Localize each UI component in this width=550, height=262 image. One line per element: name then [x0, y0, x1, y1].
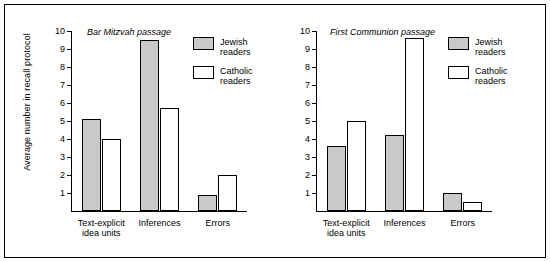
y-tick — [312, 157, 317, 158]
y-tick — [312, 121, 317, 122]
y-tick — [67, 49, 72, 50]
bar-jewish — [327, 146, 346, 211]
x-tick-label: Text-explicit idea units — [323, 218, 370, 238]
plot-area-first-communion: 12345678910Text-explicit idea unitsInfer… — [316, 31, 492, 212]
y-tick-label: 4 — [60, 135, 65, 144]
bar-jewish — [385, 135, 404, 211]
y-tick-label: 3 — [305, 153, 310, 162]
y-tick — [312, 193, 317, 194]
bar-catholic — [347, 121, 366, 211]
bar-catholic — [463, 202, 482, 211]
bar-jewish — [443, 193, 462, 211]
y-tick — [67, 193, 72, 194]
y-tick — [312, 139, 317, 140]
chart-panel-first-communion: First Communion passage Jewish readers C… — [290, 19, 540, 243]
y-tick — [312, 85, 317, 86]
bar-jewish — [198, 195, 217, 211]
y-tick-label: 8 — [60, 63, 65, 72]
y-tick — [67, 121, 72, 122]
y-tick-label: 10 — [300, 27, 310, 36]
y-tick-label: 10 — [55, 27, 65, 36]
y-tick-label: 5 — [60, 117, 65, 126]
y-tick — [312, 31, 317, 32]
y-tick-label: 5 — [305, 117, 310, 126]
y-tick-label: 6 — [305, 99, 310, 108]
y-tick-label: 9 — [305, 45, 310, 54]
y-tick-label: 7 — [60, 81, 65, 90]
x-tick-label: Inferences — [383, 218, 425, 228]
y-tick-label: 7 — [305, 81, 310, 90]
y-tick — [67, 67, 72, 68]
y-tick — [67, 85, 72, 86]
bar-catholic — [160, 108, 179, 211]
x-tick-label: Errors — [451, 218, 476, 228]
bar-catholic — [102, 139, 121, 211]
y-tick — [312, 49, 317, 50]
bar-jewish — [140, 40, 159, 211]
bar-catholic — [218, 175, 237, 211]
y-tick-label: 4 — [305, 135, 310, 144]
x-tick-label: Inferences — [138, 218, 180, 228]
chart-panel-bar-mitzvah: Bar Mitzvah passage Jewish readers Catho… — [45, 19, 280, 243]
figure-frame: Average number in recall protocol Bar Mi… — [4, 4, 546, 258]
y-tick — [67, 31, 72, 32]
x-tick-label: Errors — [206, 218, 231, 228]
y-tick-label: 6 — [60, 99, 65, 108]
y-tick-label: 3 — [60, 153, 65, 162]
y-tick-label: 1 — [60, 189, 65, 198]
y-axis-label: Average number in recall protocol — [22, 22, 32, 182]
x-tick-label: Text-explicit idea units — [78, 218, 125, 238]
y-tick — [67, 157, 72, 158]
y-tick — [312, 175, 317, 176]
y-tick — [67, 175, 72, 176]
y-tick-label: 8 — [305, 63, 310, 72]
bar-catholic — [405, 38, 424, 211]
y-tick — [312, 103, 317, 104]
y-tick — [67, 103, 72, 104]
y-tick-label: 1 — [305, 189, 310, 198]
plot-area-bar-mitzvah: 12345678910Text-explicit idea unitsInfer… — [71, 31, 247, 212]
y-tick-label: 9 — [60, 45, 65, 54]
y-tick-label: 2 — [305, 171, 310, 180]
bar-jewish — [82, 119, 101, 211]
y-tick — [312, 67, 317, 68]
y-tick-label: 2 — [60, 171, 65, 180]
figure-root: Average number in recall protocol Bar Mi… — [0, 0, 550, 262]
y-tick — [67, 139, 72, 140]
